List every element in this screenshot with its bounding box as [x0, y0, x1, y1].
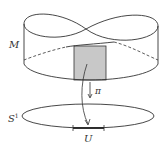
label-open-set: U: [84, 134, 92, 144]
label-total-space: M: [9, 40, 19, 50]
label-base-space-superscript: 1: [15, 112, 19, 119]
diagram-canvas: [0, 0, 166, 148]
label-base-space: S1: [8, 111, 19, 124]
label-projection: π: [95, 86, 101, 96]
mobius-top-edge: [24, 14, 158, 40]
hidden-edge-right: [114, 42, 158, 60]
shaded-patch: [74, 46, 106, 80]
hidden-edge-left: [24, 47, 66, 60]
mobius-bundle-diagram: M π S1 U: [0, 0, 166, 148]
label-base-space-letter: S: [8, 113, 15, 124]
